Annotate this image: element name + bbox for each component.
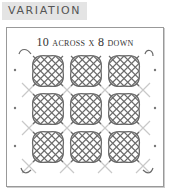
knot-motif [33, 132, 64, 163]
knot-motif [71, 132, 102, 163]
knot-motif [109, 132, 140, 163]
variation-label: VARIATION [2, 2, 87, 20]
knot-motif [109, 94, 140, 125]
knot-motif [33, 94, 64, 125]
knot-motif [71, 56, 102, 87]
knot-motif [33, 56, 64, 87]
knot-pattern-diagram [7, 28, 163, 186]
knot-motif [71, 94, 102, 125]
pattern-frame: 10 across x 8 down [6, 27, 164, 187]
knot-motif [109, 56, 140, 87]
